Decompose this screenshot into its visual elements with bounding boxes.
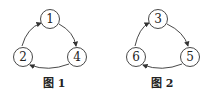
node-2: 2 — [14, 48, 33, 67]
figure-2: 3 5 6 — [127, 10, 200, 69]
edge-6-to-3 — [135, 23, 149, 46]
node-4: 4 — [68, 48, 87, 67]
figure-1-caption: 图 1 — [43, 74, 65, 90]
node-5: 5 — [181, 48, 200, 67]
figure-2-caption: 图 2 — [151, 74, 173, 90]
svg-text:3: 3 — [154, 12, 162, 26]
svg-text:4: 4 — [73, 50, 81, 64]
edge-5-to-6 — [143, 64, 182, 68]
edge-3-to-5 — [167, 24, 188, 46]
diagrams-canvas: 1 4 2 3 5 6 — [0, 0, 217, 96]
node-3: 3 — [149, 10, 168, 29]
figure-1: 1 4 2 — [14, 10, 87, 69]
svg-text:2: 2 — [19, 50, 27, 64]
svg-text:5: 5 — [186, 50, 194, 64]
edge-2-to-1 — [22, 23, 41, 46]
node-6: 6 — [127, 48, 146, 67]
node-1: 1 — [41, 10, 60, 29]
svg-text:1: 1 — [46, 12, 54, 26]
svg-text:6: 6 — [132, 50, 140, 64]
edge-1-to-4 — [59, 24, 76, 46]
edge-4-to-2 — [30, 64, 69, 68]
